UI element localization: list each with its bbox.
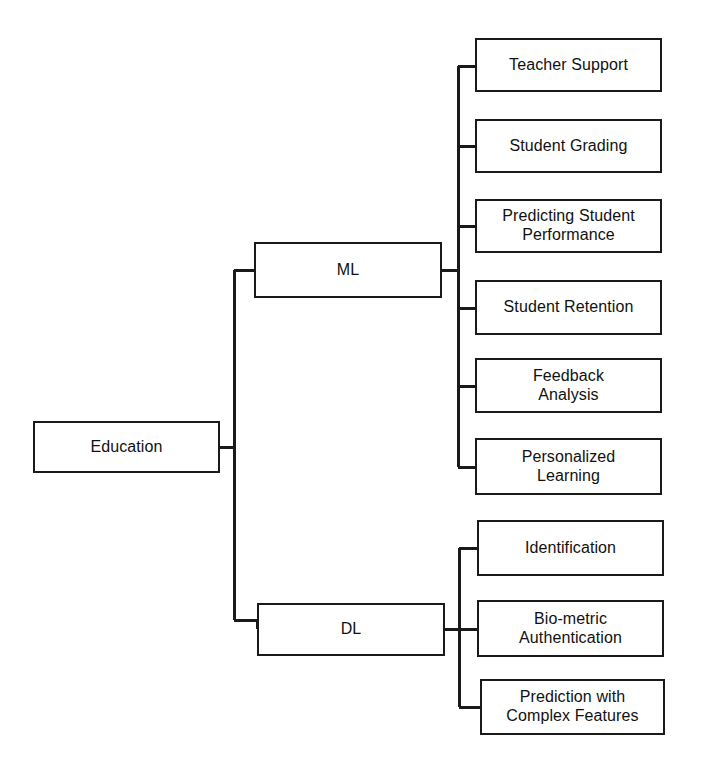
node-prediction-with-complex-features[interactable]: Prediction with Complex Features [480,679,665,735]
node-ml-label: ML [260,261,436,280]
node-ml[interactable]: ML [254,242,442,298]
node-feedback-analysis-label: Feedback Analysis [481,367,656,405]
node-feedback-analysis[interactable]: Feedback Analysis [475,358,662,413]
node-identification-label: Identification [483,539,658,558]
node-bio-metric-authentication[interactable]: Bio-metric Authentication [477,600,664,657]
node-education[interactable]: Education [33,421,220,473]
diagram-canvas: Education ML Teacher Support Student Gra… [0,0,701,771]
node-student-retention[interactable]: Student Retention [475,280,662,335]
node-student-grading-label: Student Grading [481,137,656,156]
node-predicting-student-performance[interactable]: Predicting Student Performance [475,199,662,253]
node-education-label: Education [39,438,214,457]
node-personalized-learning[interactable]: Personalized Learning [475,438,662,495]
node-student-grading[interactable]: Student Grading [475,119,662,173]
node-dl-label: DL [263,620,439,639]
edge-trunk-to-dl [234,620,257,629]
node-predicting-student-performance-label: Predicting Student Performance [481,207,656,245]
node-teacher-support[interactable]: Teacher Support [475,38,662,92]
node-teacher-support-label: Teacher Support [481,56,656,75]
node-prediction-with-complex-features-label: Prediction with Complex Features [486,688,659,726]
node-bio-metric-authentication-label: Bio-metric Authentication [483,610,658,648]
node-personalized-learning-label: Personalized Learning [481,448,656,486]
node-dl[interactable]: DL [257,603,445,656]
node-student-retention-label: Student Retention [481,298,656,317]
node-identification[interactable]: Identification [477,520,664,576]
